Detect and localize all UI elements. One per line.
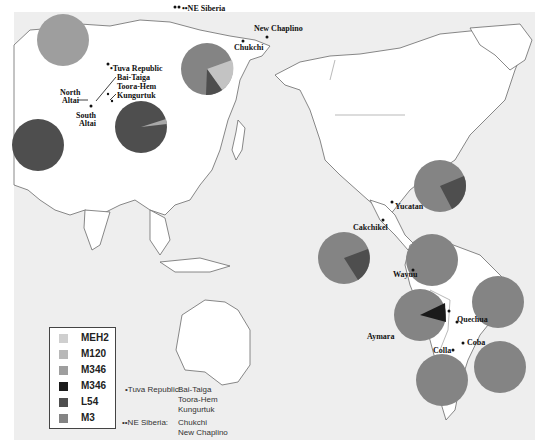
legend-item-m346-light: M346 xyxy=(50,362,115,378)
legend-swatch xyxy=(59,414,68,423)
label-north-altai-2: Altai xyxy=(62,96,80,105)
pie-coba xyxy=(474,341,526,393)
legend-label: M3 xyxy=(81,412,95,423)
pie-colla xyxy=(416,354,468,406)
legend-item-m120: M120 xyxy=(50,346,115,362)
note-tuva-region: •Tuva Republic: xyxy=(125,385,181,395)
legend-swatch xyxy=(59,398,68,407)
label-coba: Coba xyxy=(467,338,485,347)
pie-north-altai xyxy=(37,14,89,66)
legend-item-m3: M3 xyxy=(50,410,115,426)
legend-label: M346 xyxy=(81,364,106,375)
pie-south-altai xyxy=(12,119,64,171)
legend-label: L54 xyxy=(81,396,98,407)
label-ne-siberia: ••NE Siberia xyxy=(182,4,225,13)
legend-swatch xyxy=(59,382,68,391)
label-kungurtuk: Kungurtuk xyxy=(117,91,156,100)
note-siberia-sites: Chukchi New Chaplino xyxy=(178,418,228,438)
legend-item-m346-dark: M346 xyxy=(50,378,115,394)
label-wayuu: Wayuu xyxy=(393,270,418,279)
legend-swatch xyxy=(59,366,68,375)
legend-item-meh2: MEH2 xyxy=(50,330,115,346)
legend-swatch xyxy=(59,350,68,359)
label-yucatan: Yucatan xyxy=(395,202,424,211)
label-aymara: Aymara xyxy=(367,332,394,341)
legend-label: M120 xyxy=(81,348,106,359)
legend-item-l54: L54 xyxy=(50,394,115,410)
label-bai-taiga: Bai-Taiga xyxy=(117,73,150,82)
legend-label: MEH2 xyxy=(81,332,109,343)
label-toora-hem: Toora-Hem xyxy=(117,82,157,91)
label-colla: Colla xyxy=(433,346,451,355)
pie-aymara xyxy=(394,289,446,341)
note-tuva-sites: Bai-Taiga Toora-Hem Kungurtuk xyxy=(178,385,218,415)
label-quechua: Quechua xyxy=(457,315,488,324)
label-tuva-republic: •Tuva Republic xyxy=(110,64,163,73)
label-south-altai-2: Altai xyxy=(79,119,97,128)
label-chukchi: Chukchi xyxy=(234,43,264,52)
legend-label: M346 xyxy=(81,380,106,391)
pie-tuva xyxy=(115,101,167,153)
label-cakchikel: Cakchikel xyxy=(353,223,388,232)
legend-swatch xyxy=(59,334,68,343)
legend: MEH2 M120 M346 M346 L54 M3 xyxy=(49,327,116,429)
pie-ne-siberia xyxy=(181,43,233,95)
label-new-chaplino: New Chaplino xyxy=(254,24,303,33)
note-siberia-region: ••NE Siberia: xyxy=(122,418,168,428)
pie-cakchikel xyxy=(318,232,370,284)
